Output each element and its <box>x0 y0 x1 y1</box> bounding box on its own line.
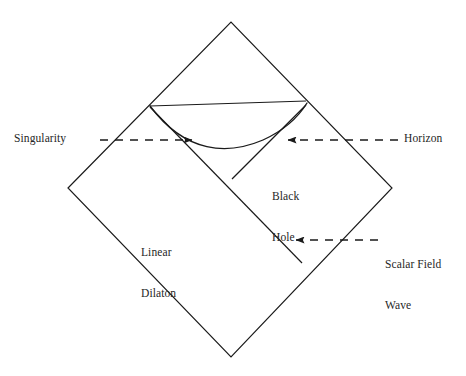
singularity-curve-path <box>150 103 307 149</box>
label-singularity: Singularity <box>14 132 66 146</box>
singularity-chord-path <box>150 101 306 106</box>
label-linear-dilaton: Linear Dilaton <box>141 219 176 327</box>
label-linear-dilaton-line2: Dilaton <box>141 287 176 301</box>
label-scalar-field-wave: Scalar Field Wave <box>385 231 441 339</box>
label-black-hole-line1: Black <box>272 190 299 204</box>
label-black-hole: Black Hole <box>272 163 299 271</box>
label-black-hole-line2: Hole <box>272 231 299 245</box>
label-scalar-field-wave-line1: Scalar Field <box>385 258 441 272</box>
label-horizon: Horizon <box>404 132 442 146</box>
penrose-diagram-figure: Singularity Horizon Black Hole Linear Di… <box>0 0 466 376</box>
singularity-curve <box>150 101 307 149</box>
label-scalar-field-wave-line2: Wave <box>385 299 441 313</box>
label-linear-dilaton-line1: Linear <box>141 246 176 260</box>
